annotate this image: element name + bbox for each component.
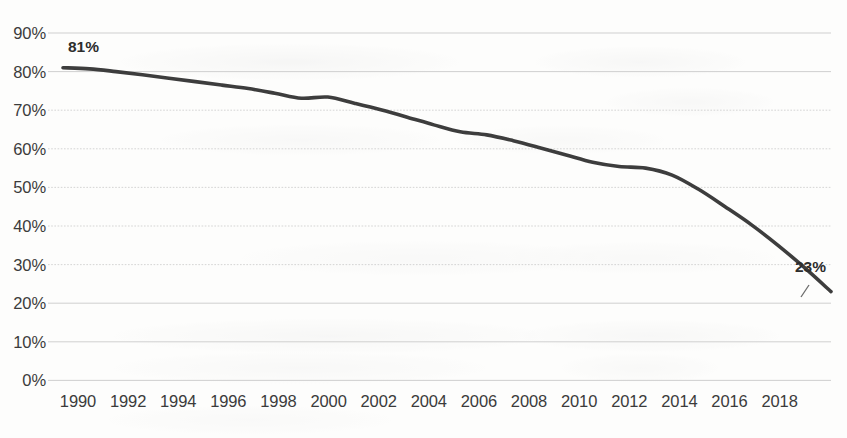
line-chart: 90% 80% 70% 60% 50% 40% 30% 20% 10% 0% 1… xyxy=(0,0,847,438)
data-line xyxy=(63,68,831,292)
end-value-label: 23% xyxy=(795,258,826,276)
end-label-leader-line xyxy=(801,285,809,297)
start-value-label: 81% xyxy=(68,38,99,56)
gridlines xyxy=(48,33,831,380)
data-series-group xyxy=(63,68,831,292)
plot-area xyxy=(0,0,847,438)
